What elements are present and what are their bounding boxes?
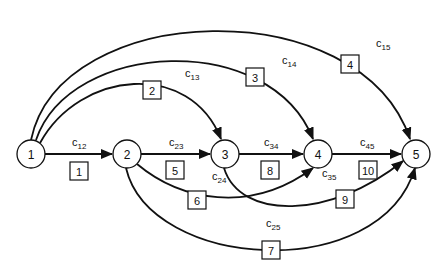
cost-label-subscript: 13 — [191, 73, 200, 82]
edge-1-5 — [31, 31, 410, 140]
index-box-label: 2 — [149, 85, 155, 97]
cost-label-2-5: c25 — [266, 217, 281, 232]
cost-label-1-2: c12 — [72, 136, 87, 151]
index-box-label: 1 — [76, 166, 82, 178]
edge-1-4 — [36, 61, 313, 140]
index-box-label: 3 — [252, 72, 258, 84]
cost-label-subscript: 23 — [175, 142, 184, 151]
index-box-label: 10 — [362, 165, 374, 177]
index-box-label: 7 — [268, 245, 274, 257]
edge-index-box-4-5: 10 — [359, 161, 377, 179]
node-label: 3 — [222, 148, 229, 162]
cost-label-subscript: 25 — [272, 223, 281, 232]
cost-label-subscript: 45 — [366, 142, 375, 151]
node-2: 2 — [113, 140, 141, 168]
cost-label-2-3: c23 — [169, 136, 184, 151]
index-box-label: 6 — [194, 195, 200, 207]
index-box-label: 8 — [267, 165, 273, 177]
node-label: 2 — [124, 148, 131, 162]
node-label: 4 — [315, 148, 322, 162]
edge-index-box-3-4: 8 — [261, 161, 279, 179]
edge-index-box-1-3: 2 — [143, 81, 161, 99]
network-diagram: c12c13c14c15c23c24c25c34c35c45 123456789… — [0, 0, 441, 276]
edge-index-box-2-5: 7 — [262, 241, 280, 259]
cost-label-1-3: c13 — [185, 67, 200, 82]
edge-index-box-2-4: 6 — [188, 191, 206, 209]
cost-label-1-4: c14 — [282, 54, 297, 69]
node-label: 5 — [413, 148, 420, 162]
cost-label-subscript: 12 — [78, 142, 87, 151]
index-box-label: 9 — [342, 194, 348, 206]
node-5: 5 — [402, 140, 430, 168]
node-4: 4 — [304, 140, 332, 168]
edge-index-box-3-5: 9 — [336, 190, 354, 208]
cost-label-subscript: 35 — [328, 173, 337, 182]
index-box-label: 4 — [347, 59, 353, 71]
edge-2-5 — [126, 168, 415, 250]
cost-label-4-5: c45 — [360, 136, 375, 151]
index-box-label: 5 — [172, 165, 178, 177]
edge-index-box-1-2: 1 — [70, 162, 88, 180]
cost-label-3-4: c34 — [264, 136, 279, 151]
cost-label-1-5: c15 — [376, 37, 391, 52]
edge-index-box-1-4: 3 — [246, 68, 264, 86]
cost-label-subscript: 24 — [218, 176, 227, 185]
node-1: 1 — [17, 140, 45, 168]
edge-index-box-2-3: 5 — [166, 161, 184, 179]
cost-label-3-5: c35 — [322, 167, 337, 182]
node-3: 3 — [211, 140, 239, 168]
node-label: 1 — [28, 148, 35, 162]
cost-label-subscript: 14 — [288, 60, 297, 69]
edge-index-box-1-5: 4 — [341, 55, 359, 73]
edge-1-3 — [40, 84, 221, 143]
cost-label-subscript: 15 — [382, 43, 391, 52]
cost-label-subscript: 34 — [270, 142, 279, 151]
